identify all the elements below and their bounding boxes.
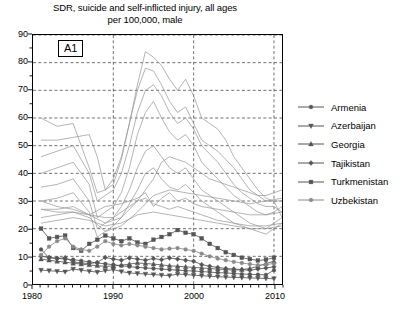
y-axis-tick-label: 60 <box>2 113 28 122</box>
legend-item-georgia[interactable]: Georgia <box>296 135 414 154</box>
legend-label: Turkmenistan <box>326 176 388 187</box>
background-line <box>41 146 282 229</box>
chart-canvas <box>33 35 282 284</box>
plot-area <box>32 34 283 285</box>
legend-item-turkmenistan[interactable]: Turkmenistan <box>296 172 414 191</box>
background-line <box>41 168 282 237</box>
series-turkmenistan <box>39 227 276 263</box>
chart-title-line-1: SDR, suicide and self-inflicted injury, … <box>0 2 290 14</box>
x-axis-tick-label: 1980 <box>12 292 52 301</box>
legend-item-armenia[interactable]: Armenia <box>296 98 414 117</box>
diamond-marker-icon <box>296 157 326 169</box>
y-axis-tick-label: 10 <box>2 253 28 262</box>
legend-item-uzbekistan[interactable]: Uzbekistan <box>296 191 414 210</box>
chart-title: SDR, suicide and self-inflicted injury, … <box>0 2 290 26</box>
y-axis-tick-label: 20 <box>2 225 28 234</box>
triangle-up-marker-icon <box>296 138 326 150</box>
y-axis-tick-label: 50 <box>2 141 28 150</box>
triangle-down-marker-icon <box>296 120 326 132</box>
legend-item-azerbaijan[interactable]: Azerbaijan <box>296 117 414 136</box>
y-axis-tick-label: 70 <box>2 85 28 94</box>
legend-item-tajikistan[interactable]: Tajikistan <box>296 154 414 173</box>
circle-marker-icon <box>296 194 326 206</box>
x-axis-tick-label: 1990 <box>93 292 133 301</box>
legend-label: Georgia <box>326 139 365 150</box>
y-axis-tick-label: 0 <box>2 281 28 290</box>
y-axis-tick-label: 40 <box>2 169 28 178</box>
y-axis-tick-label: 80 <box>2 57 28 66</box>
x-axis-tick-label: 2000 <box>174 292 214 301</box>
legend-label: Tajikistan <box>326 158 370 169</box>
panel-label: A1 <box>58 40 83 57</box>
circle-marker-icon <box>296 101 326 113</box>
background-line <box>41 198 282 226</box>
legend-label: Armenia <box>326 102 366 113</box>
y-axis-tick-label: 90 <box>2 30 28 39</box>
chart-title-line-2: per 100,000, male <box>0 14 290 26</box>
y-axis-tick-label: 30 <box>2 197 28 206</box>
legend-label: Uzbekistan <box>326 195 378 206</box>
chart-legend: ArmeniaAzerbaijanGeorgiaTajikistanTurkme… <box>296 98 414 210</box>
square-marker-icon <box>296 176 326 188</box>
x-axis-tick-label: 2010 <box>255 292 295 301</box>
chart-page: SDR, suicide and self-inflicted injury, … <box>0 0 414 314</box>
background-line <box>41 101 282 217</box>
legend-label: Azerbaijan <box>326 120 376 131</box>
